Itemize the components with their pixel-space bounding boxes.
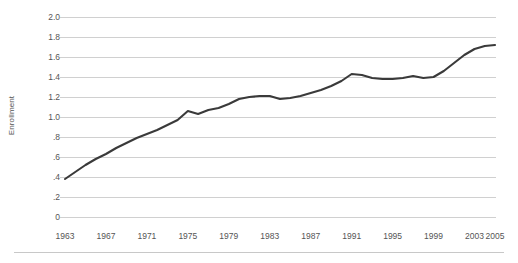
x-axis-tick-label: 1975 <box>178 232 197 241</box>
x-axis-tick-label: 1979 <box>219 232 238 241</box>
footer-divider <box>14 252 504 253</box>
x-axis-tick-label: 1987 <box>301 232 320 241</box>
y-axis-tick-label: .8 <box>26 133 60 142</box>
x-axis-tick-label: 1995 <box>383 232 402 241</box>
y-axis-tick-label: .2 <box>26 193 60 202</box>
y-axis-tick-labels: 0.2.4.6.81.01.21.41.61.82.0 <box>16 0 60 230</box>
y-axis-tick-label: .6 <box>26 153 60 162</box>
x-axis-tick-label: 1971 <box>137 232 156 241</box>
series-enrollment <box>60 0 496 230</box>
y-axis-tick-label: .4 <box>26 173 60 182</box>
y-axis-tick-label: 1.4 <box>26 73 60 82</box>
y-axis-tick-label: 2.0 <box>26 13 60 22</box>
y-axis-tick-label: 1.2 <box>26 93 60 102</box>
y-axis-tick-label: 1.8 <box>26 33 60 42</box>
x-axis-tick-labels: 1963196719711975197919831987199119951999… <box>0 230 518 250</box>
x-axis-tick-label: 2005 <box>486 232 505 241</box>
x-axis-tick-label: 1963 <box>56 232 75 241</box>
x-axis-tick-label: 1967 <box>96 232 115 241</box>
x-axis-tick-label: 1999 <box>424 232 443 241</box>
x-axis-tick-label: 2003 <box>465 232 484 241</box>
series-enrollment-line <box>65 45 495 179</box>
enrollment-line-chart: Enrollment 0.2.4.6.81.01.21.41.61.82.0 1… <box>0 0 518 263</box>
y-axis-tick-label: 0 <box>26 213 60 222</box>
y-axis-tick-label: 1.6 <box>26 53 60 62</box>
plot-area <box>60 0 496 230</box>
y-axis-tick-label: 1.0 <box>26 113 60 122</box>
x-axis-tick-label: 1991 <box>342 232 361 241</box>
x-axis-tick-label: 1983 <box>260 232 279 241</box>
